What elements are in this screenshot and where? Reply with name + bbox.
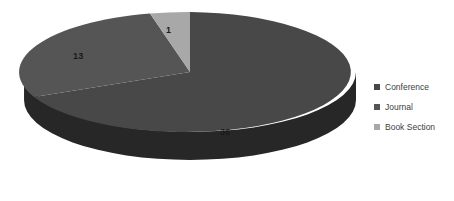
- square-marker-icon: [374, 104, 380, 110]
- legend-label-book-section: Book Section: [385, 123, 435, 132]
- legend-item-book-section[interactable]: Book Section: [374, 122, 435, 132]
- chart-legend: Conference Journal Book Section: [374, 82, 435, 132]
- square-marker-icon: [374, 124, 380, 130]
- pie-chart: 1 13 36 Conference Journal Book Section: [0, 0, 454, 201]
- legend-label-journal: Journal: [385, 103, 413, 112]
- legend-item-conference[interactable]: Conference: [374, 82, 435, 92]
- legend-item-journal[interactable]: Journal: [374, 102, 435, 112]
- pie-top-faces: [19, 12, 351, 132]
- square-marker-icon: [374, 84, 380, 90]
- data-label-conference: 36: [220, 128, 230, 137]
- legend-label-conference: Conference: [385, 83, 429, 92]
- data-label-book-section: 1: [166, 26, 171, 35]
- data-label-journal: 13: [73, 52, 83, 61]
